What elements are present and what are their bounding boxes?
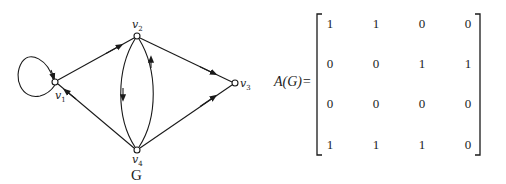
cell-3-1: 1 <box>373 137 380 152</box>
cell-1-3: 1 <box>465 56 472 71</box>
cell-3-0: 1 <box>327 137 334 152</box>
cell-0-0: 1 <box>327 16 334 31</box>
arrow-v1-v2 <box>106 46 120 54</box>
right-bracket <box>475 14 480 155</box>
cell-3-2: 1 <box>419 137 426 152</box>
cell-2-0: 0 <box>327 96 334 111</box>
diagram-canvas: v1 v2 v3 v4 G A(G)= 1 1 0 0 0 0 1 1 0 0 … <box>0 0 506 184</box>
graph-g <box>18 38 232 148</box>
vertex-v2 <box>134 33 140 39</box>
vertex-label-v2: v2 <box>132 18 143 33</box>
left-bracket <box>317 14 322 155</box>
cell-1-0: 0 <box>327 56 334 71</box>
cell-2-2: 0 <box>419 96 426 111</box>
cell-2-1: 0 <box>373 96 380 111</box>
edge-v4-v2 <box>139 39 153 147</box>
cell-3-3: 0 <box>465 137 472 152</box>
matrix-cells: 1 1 0 0 0 0 1 1 0 0 0 0 1 1 1 0 <box>327 16 472 152</box>
matrix-brackets <box>317 14 480 155</box>
arrow-v4-v3 <box>200 97 214 107</box>
cell-0-2: 0 <box>419 16 426 31</box>
vertex-v1 <box>52 79 58 85</box>
arrow-v2-v3 <box>200 67 214 74</box>
cell-0-3: 0 <box>465 16 472 31</box>
edge-v2-v3 <box>140 38 232 82</box>
vertex-v3 <box>232 80 238 86</box>
cell-0-1: 1 <box>373 16 380 31</box>
cell-2-3: 0 <box>465 96 472 111</box>
arrow-v4-v1 <box>66 91 76 99</box>
edge-v4-v3 <box>140 85 232 148</box>
vertex-label-v1: v1 <box>55 89 66 104</box>
edge-v1-v1-loop <box>18 57 55 97</box>
graph-name-label: G <box>131 167 142 183</box>
cell-1-2: 1 <box>419 56 426 71</box>
matrix-label: A(G)= <box>273 74 311 90</box>
cell-1-1: 0 <box>373 56 380 71</box>
vertex-label-v4: v4 <box>132 153 143 168</box>
vertex-label-v3: v3 <box>240 77 251 92</box>
